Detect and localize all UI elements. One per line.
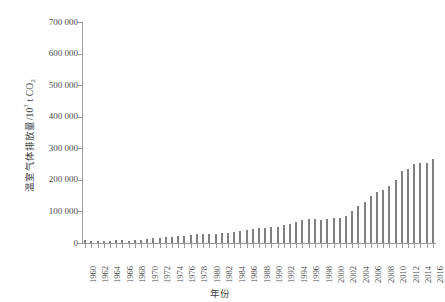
x-tick-label: 1974 bbox=[176, 243, 185, 283]
x-tick-label: 2016 bbox=[436, 243, 445, 283]
x-tick-label: 1988 bbox=[263, 243, 272, 283]
x-axis-title: 年份 bbox=[0, 286, 439, 300]
x-tick-label: 1982 bbox=[225, 243, 234, 283]
x-tick-label: 2008 bbox=[387, 243, 396, 283]
x-tick-label: 2000 bbox=[337, 243, 346, 283]
x-tick-label: 1970 bbox=[151, 243, 160, 283]
x-tick-label: 1990 bbox=[275, 243, 284, 283]
x-tick-label: 1962 bbox=[101, 243, 110, 283]
x-tick-label: 1964 bbox=[113, 243, 122, 283]
x-tick-label: 2012 bbox=[412, 243, 421, 283]
x-tick-label: 1986 bbox=[250, 243, 259, 283]
x-tick-label: 1960 bbox=[89, 243, 98, 283]
x-tick-label: 1992 bbox=[287, 243, 296, 283]
x-tick-label: 1968 bbox=[138, 243, 147, 283]
x-tick-label: 2010 bbox=[399, 243, 408, 283]
x-tick-label: 2004 bbox=[362, 243, 371, 283]
x-tick-label: 2002 bbox=[349, 243, 358, 283]
x-tick-label: 1998 bbox=[325, 243, 334, 283]
x-tick-label: 2014 bbox=[424, 243, 433, 283]
x-tick-label: 1978 bbox=[200, 243, 209, 283]
x-tick-label: 1972 bbox=[163, 243, 172, 283]
x-tick-label: 1984 bbox=[238, 243, 247, 283]
x-tick-label: 1994 bbox=[300, 243, 309, 283]
x-tick-label: 1976 bbox=[188, 243, 197, 283]
x-tick-label: 2006 bbox=[374, 243, 383, 283]
x-tick-label: 1980 bbox=[213, 243, 222, 283]
x-tick-label: 1966 bbox=[126, 243, 135, 283]
x-tick-label: 1996 bbox=[312, 243, 321, 283]
